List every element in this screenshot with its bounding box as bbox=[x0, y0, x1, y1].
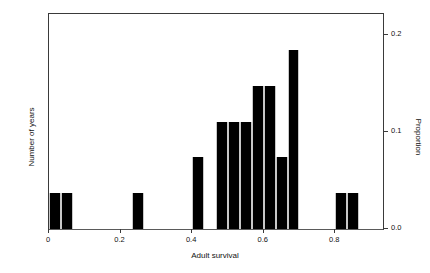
histogram-bar bbox=[276, 157, 288, 229]
x-axis-tick bbox=[191, 229, 192, 233]
x-axis-tick bbox=[48, 229, 49, 233]
histogram-bar bbox=[216, 122, 228, 230]
x-axis-tick-label: 0.2 bbox=[114, 236, 124, 244]
y-axis-right-tick bbox=[383, 131, 388, 132]
y-axis-right-tick bbox=[383, 34, 388, 35]
x-axis-tick-label: 0.8 bbox=[329, 236, 339, 244]
x-axis-tick-label: 0 bbox=[46, 236, 50, 244]
histogram-bar bbox=[49, 193, 61, 229]
y-axis-left: 0123456 bbox=[0, 0, 48, 273]
histogram-figure: 0123456 Number of years 0.00.10.2 Propor… bbox=[0, 0, 430, 273]
histogram-bar bbox=[335, 193, 347, 229]
histogram-bar bbox=[252, 86, 264, 229]
y-axis-right-tick-label: 0.0 bbox=[391, 224, 401, 232]
histogram-bar bbox=[132, 193, 144, 229]
y-axis-right-title: Proportion bbox=[414, 118, 423, 155]
x-axis-tick bbox=[120, 229, 121, 233]
y-axis-right-tick-label: 0.1 bbox=[391, 127, 401, 135]
y-axis-right-tick bbox=[383, 228, 388, 229]
histogram-bar bbox=[61, 193, 73, 229]
histogram-bar bbox=[347, 193, 359, 229]
y-axis-left-title: Number of years bbox=[27, 107, 36, 166]
x-axis-tick bbox=[263, 229, 264, 233]
histogram-bar bbox=[228, 122, 240, 230]
x-axis-tick-label: 0.4 bbox=[186, 236, 196, 244]
x-axis-tick-label: 0.6 bbox=[258, 236, 268, 244]
y-axis-right-tick-label: 0.2 bbox=[391, 31, 401, 39]
histogram-bar bbox=[288, 50, 300, 229]
plot-area bbox=[48, 13, 384, 230]
histogram-bar bbox=[192, 157, 204, 229]
x-axis-title: Adult survival bbox=[0, 251, 430, 260]
histogram-bar bbox=[264, 86, 276, 229]
bars-layer bbox=[49, 14, 383, 229]
x-axis-tick bbox=[334, 229, 335, 233]
histogram-bar bbox=[240, 122, 252, 230]
